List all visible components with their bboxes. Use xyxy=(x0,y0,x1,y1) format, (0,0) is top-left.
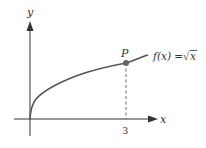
x-tick-label-3: 3 xyxy=(123,124,129,136)
y-axis-label: y xyxy=(26,6,34,19)
point-p-label: P xyxy=(120,47,129,60)
function-graph xyxy=(30,59,126,119)
point-p-marker xyxy=(123,60,129,66)
sqrt-curve-visible xyxy=(30,55,148,119)
sqrt-curve-line xyxy=(30,50,126,119)
x-axis-arrow-icon xyxy=(148,116,158,123)
function-label: f(x) = xyxy=(152,50,183,62)
x-axis-label: x xyxy=(160,113,167,126)
sqrt-curve xyxy=(30,50,126,119)
sqrt-function-diagram: y x P 3 f(x) = √ x xyxy=(0,0,206,148)
y-axis-arrow-icon xyxy=(27,21,34,31)
sqrt-symbol: √ xyxy=(183,50,190,62)
function-label-radicand: x xyxy=(190,50,196,62)
